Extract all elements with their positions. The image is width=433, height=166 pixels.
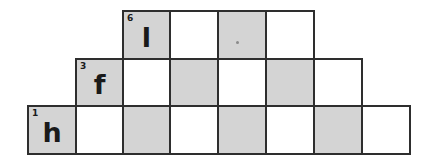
grid-cell-r3-c4[interactable] <box>169 105 219 155</box>
dot-mark-icon <box>236 41 239 44</box>
grid-cell-r3-c3[interactable] <box>122 105 171 155</box>
grid-cell-r1-c5[interactable] <box>217 10 267 60</box>
word-grid: 6l3f1h <box>0 0 433 166</box>
grid-cell-r2-c7[interactable] <box>313 58 363 107</box>
grid-cell-r3-c6[interactable] <box>265 105 315 155</box>
grid-cell-r3-c7[interactable] <box>313 105 363 155</box>
cell-letter <box>219 64 265 105</box>
cell-letter <box>315 64 361 105</box>
cell-letter <box>267 64 313 105</box>
cell-letter: l <box>124 16 169 58</box>
grid-cell-r3-c1[interactable]: 1h <box>27 105 77 155</box>
cell-letter: h <box>29 111 75 153</box>
cell-letter <box>267 16 313 58</box>
cell-letter <box>219 16 265 58</box>
cell-letter <box>171 16 217 58</box>
grid-cell-r2-c6[interactable] <box>265 58 315 107</box>
grid-cell-r3-c8[interactable] <box>361 105 411 155</box>
cell-letter: f <box>77 64 122 105</box>
cell-letter <box>171 111 217 153</box>
grid-cell-r2-c3[interactable] <box>122 58 171 107</box>
grid-cell-r2-c5[interactable] <box>217 58 267 107</box>
cell-letter <box>77 111 122 153</box>
grid-cell-r2-c2[interactable]: 3f <box>75 58 124 107</box>
grid-cell-r2-c4[interactable] <box>169 58 219 107</box>
grid-cell-r3-c2[interactable] <box>75 105 124 155</box>
cell-letter <box>315 111 361 153</box>
grid-cell-r1-c3[interactable]: 6l <box>122 10 171 60</box>
cell-letter <box>219 111 265 153</box>
cell-letter <box>363 111 409 153</box>
cell-letter <box>124 64 169 105</box>
grid-cell-r3-c5[interactable] <box>217 105 267 155</box>
cell-letter <box>267 111 313 153</box>
cell-letter <box>124 111 169 153</box>
grid-cell-r1-c4[interactable] <box>169 10 219 60</box>
grid-cell-r1-c6[interactable] <box>265 10 315 60</box>
cell-letter <box>171 64 217 105</box>
